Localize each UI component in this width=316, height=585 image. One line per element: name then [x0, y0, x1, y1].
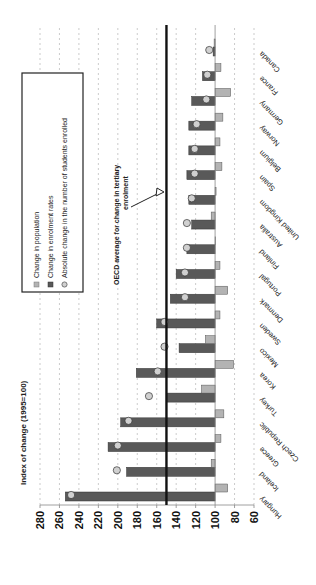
absolute-change-marker [181, 269, 188, 276]
population-bar [215, 88, 231, 96]
tick-label: 160 [151, 511, 163, 529]
enrolment-bar [170, 294, 215, 303]
country-labels: HungaryIcelandGreeceCzech RepublicTurkey… [256, 49, 301, 521]
tick-label: 260 [53, 511, 65, 529]
country-label: Mexico [257, 346, 280, 369]
country-label: Iceland [257, 470, 280, 493]
absolute-change-marker [203, 96, 210, 103]
tick-label: 280 [34, 511, 46, 529]
population-bar [201, 385, 215, 393]
absolute-change-marker [191, 170, 198, 177]
absolute-change-marker [183, 244, 190, 251]
enrolment-bar [187, 245, 215, 254]
country-label: Finland [257, 247, 281, 271]
country-label: Germany [257, 99, 285, 127]
population-bar [205, 336, 215, 344]
population-bar [215, 360, 233, 368]
country-label: Greece [257, 445, 281, 469]
enrolment-bar [127, 467, 216, 476]
legend: Change in populationChange in enrolment … [22, 73, 83, 292]
absolute-change-marker [191, 145, 198, 152]
country-label: Spain [257, 173, 277, 193]
population-bar [215, 311, 220, 319]
absolute-change-marker [183, 219, 190, 226]
enrolment-bar [136, 368, 215, 377]
population-bar [211, 459, 215, 467]
tick-label: 220 [92, 511, 104, 529]
absolute-change-marker [188, 195, 195, 202]
population-bar [215, 435, 221, 443]
tick-label: 240 [73, 511, 85, 529]
y-axis-label: Index of change (1995=100) [19, 380, 28, 485]
absolute-change-marker [68, 491, 75, 498]
country-label: Belgium [257, 148, 283, 174]
tick-label: 60 [248, 511, 260, 523]
absolute-change-marker [145, 393, 152, 400]
country-label: Portugal [257, 272, 283, 298]
country-label: Turkey [257, 396, 280, 419]
bar-chart: 2802602402202001801601401201008060 Hunga… [0, 0, 316, 585]
population-bar [215, 410, 224, 418]
country-label: Canada [256, 49, 282, 75]
absolute-change-marker [206, 46, 213, 53]
legend-entry-label: Absolute change in the number of student… [61, 118, 69, 278]
enrolment-bar [179, 344, 215, 353]
population-bar [211, 212, 215, 220]
oecd-annotation-line1: OECD average for change in tertiary [113, 165, 121, 285]
population-bar [215, 138, 220, 146]
country-label: Hungary [257, 494, 284, 521]
enrolment-bar [166, 393, 215, 402]
bars [65, 39, 233, 501]
oecd-annotation-line2: enrolment [122, 175, 129, 210]
enrolment-bar [108, 443, 215, 452]
tick-label: 200 [112, 511, 124, 529]
tick-label: 80 [229, 511, 241, 523]
absolute-change-marker [204, 71, 211, 78]
population-bar [215, 262, 220, 270]
absolute-change-marker [113, 467, 120, 474]
population-bar [215, 163, 222, 171]
country-label: France [257, 74, 280, 97]
enrolment-bar [189, 121, 215, 130]
legend-absolute-marker [62, 282, 67, 287]
legend-entry-label: Change in population [33, 212, 41, 278]
legend-population-swatch [34, 282, 39, 287]
tick-label: 100 [209, 511, 221, 529]
enrolment-bar [192, 220, 215, 229]
population-bar [215, 286, 228, 294]
enrolment-bar [121, 418, 215, 427]
country-label: Korea [256, 370, 277, 391]
tick-label: 120 [190, 511, 202, 529]
tick-label: 140 [170, 511, 182, 529]
population-bar [215, 64, 221, 72]
legend-entry-label: Change in enrolment rates [47, 195, 55, 278]
country-label: Denmark [257, 297, 285, 325]
tick-label: 180 [131, 511, 143, 529]
arrow-head-icon [156, 188, 164, 196]
legend-enrolment-swatch [48, 282, 53, 287]
chart-stage: 2802602402202001801601401201008060 Hunga… [0, 0, 316, 585]
absolute-change-marker [114, 442, 121, 449]
population-bar [215, 113, 223, 121]
absolute-change-marker [193, 121, 200, 128]
population-bar [215, 484, 228, 492]
absolute-change-marker [154, 368, 161, 375]
absolute-change-marker [181, 294, 188, 301]
absolute-change-marker [125, 417, 132, 424]
enrolment-bar [65, 492, 215, 501]
